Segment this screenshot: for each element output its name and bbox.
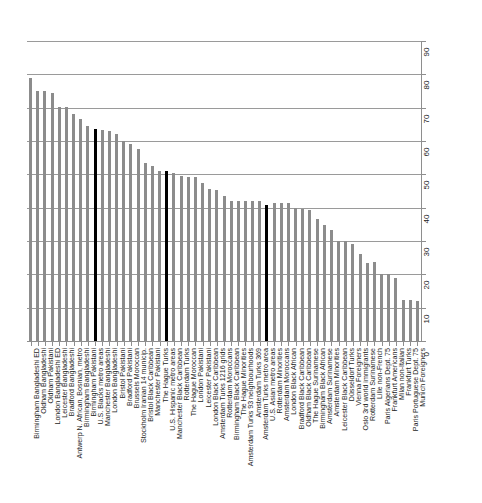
x-axis-tick-label: Leicester Pakistani — [206, 288, 213, 348]
x-axis-tick-label: Bristol Pakistani — [120, 298, 127, 348]
y-axis-tick-label: 60 — [422, 135, 431, 157]
y-axis-tick-label: 20 — [422, 268, 431, 290]
x-axis-tick-label: The Hague Turks — [163, 294, 170, 348]
y-axis-tick-labels: 0102030405060708090 — [426, 41, 452, 342]
y-axis-tick-label: 90 — [422, 35, 431, 57]
y-axis-tick-label: 50 — [422, 168, 431, 190]
x-axis-tick-label: London Pakistani — [198, 294, 205, 348]
x-axis-tick-label: Manchester Pakistani — [155, 280, 162, 348]
x-axis-tick-label: Lille non-French — [377, 297, 384, 348]
y-axis-tick-label: 70 — [422, 101, 431, 123]
y-axis-tick-label: 40 — [422, 201, 431, 223]
x-axis-tick-label: London Black African — [291, 281, 298, 348]
x-axis-tick-label: Leicester Black Caribbean — [342, 265, 349, 348]
x-axis-tick-label: Birmingham Bangladeshi ED — [34, 257, 41, 348]
x-axis-tick-label: Munich Foreigners — [420, 289, 427, 348]
x-axis-tick-labels: Birmingham Bangladeshi EDOldham Banglade… — [27, 348, 427, 498]
x-axis-tick-label: Amsterdam Minorities — [334, 279, 341, 348]
x-axis-tick-label: Amsterdam Turks 93 neighbourhoods — [248, 230, 255, 348]
y-axis-tick-label: 30 — [422, 235, 431, 257]
x-axis-tick-label: Bradford Bangladeshi — [69, 280, 76, 348]
y-axis-tick-label: 80 — [422, 68, 431, 90]
x-axis-tick-label: Bradford Black Caribbean — [299, 267, 306, 348]
bar-chart: 0102030405060708090 Birmingham Banglades… — [0, 0, 482, 503]
x-axis-tick — [31, 342, 32, 346]
bar — [29, 78, 32, 341]
x-axis-tick-label: U.S. Hispanic metro areas — [170, 265, 177, 348]
x-axis-tick-label: Bradford Pakistani — [127, 290, 134, 348]
x-axis-tick-label: London Black Caribbean — [213, 270, 220, 348]
x-axis-tick-label: London Bangladeshi — [112, 283, 119, 348]
x-axis-tick-label: Birmingham Bangladeshi — [84, 269, 91, 348]
x-axis-tick-label: Paris Algerians Dept. 75 — [385, 272, 392, 348]
x-axis-tick-label: Amsterdam Turks 369 — [256, 279, 263, 348]
x-axis-tick-label-text: Munich Foreigners — [420, 348, 427, 407]
x-axis-tick-label: Antwerp N. African, Bosnian, metro — [77, 238, 84, 348]
